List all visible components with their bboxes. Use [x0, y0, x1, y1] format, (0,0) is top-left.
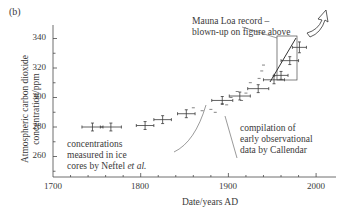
x-ticks	[71, 173, 317, 177]
mauna-loa-inset-box	[277, 36, 297, 80]
annotation-ice-line3: cores by Neftel et al.	[67, 161, 146, 172]
y-ticks	[53, 39, 57, 172]
annotation-callendar-line2: early observational	[240, 134, 313, 145]
annotation-callendar: compilation of early observational data …	[240, 123, 313, 156]
annotation-ice-line2: measured in ice	[67, 150, 146, 161]
ice-core-data-points	[82, 42, 307, 131]
annotation-ice-cores: concentrations measured in ice cores by …	[67, 139, 146, 172]
annotation-mauna-loa: Mauna Loa record – blown-up on figure ab…	[192, 16, 290, 38]
annotation-ice-line3-prefix: cores by Neftel	[67, 161, 127, 171]
annotation-mauna-loa-line1: Mauna Loa record –	[192, 16, 290, 27]
annotation-ice-line3-italic: et al.	[127, 161, 146, 171]
annotation-callendar-line3: data by Callendar	[240, 145, 313, 156]
annotation-ice-line1: concentrations	[67, 139, 146, 150]
annotation-mauna-loa-line2: blown-up on figure above	[192, 27, 290, 38]
chart-plot	[0, 0, 344, 219]
expand-arrow-icon	[307, 10, 328, 37]
annotation-callendar-line1: compilation of	[240, 123, 313, 134]
